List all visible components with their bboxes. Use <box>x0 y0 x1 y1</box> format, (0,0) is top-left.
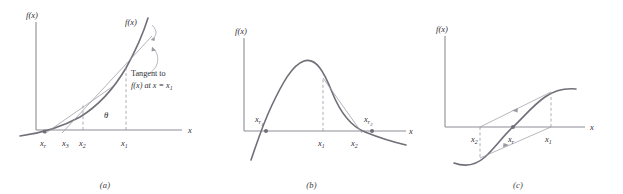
tick-label-xr-c: xr <box>507 134 515 145</box>
tick-x1-sub-b: 1 <box>322 143 325 149</box>
panel-b: f(x) x xr1 xr2 x1 x2 (b) <box>210 0 413 194</box>
panel-b-plot: f(x) x xr1 xr2 x1 x2 <box>210 0 413 194</box>
tick-label-x2-c: x2 <box>470 134 478 145</box>
panel-c-plot: f(x) x x2 xr x1 <box>413 0 623 194</box>
root-label-xr2-b: xr2 <box>363 114 373 127</box>
tangent-annotation-line1: Tangent to <box>131 69 166 78</box>
root-marker-c <box>511 125 515 129</box>
tick-x1-sub-a: 1 <box>125 143 128 149</box>
panel-b-caption: (b) <box>210 180 413 190</box>
tick-label-x2-b: x2 <box>350 138 358 149</box>
tick-xr-sub-c: r <box>512 139 515 145</box>
tick-label-x3-a: x3 <box>61 138 69 149</box>
x-axis-label-a: x <box>187 125 192 135</box>
tick-x2-sub-b: 2 <box>355 143 358 149</box>
panel-a-caption: (a) <box>0 180 210 190</box>
tick-x2-sub-c: 2 <box>475 139 478 145</box>
tick-label-xr-a: xr <box>39 138 47 149</box>
arrowhead-upper-c <box>512 108 518 113</box>
root-xr1-sub2: 1 <box>261 122 263 127</box>
tick-x2-sub-a: 2 <box>83 143 86 149</box>
root-marker-b-right <box>370 129 374 133</box>
tick-x3-sub-a: 3 <box>65 143 69 149</box>
tangent-annotation-line2-sub: 1 <box>170 85 173 91</box>
root-finding-figure: f(x) x f(x) θ Tangent to f(x) at x = x1 … <box>0 0 623 194</box>
tick-x1-sub-c: 1 <box>549 139 552 145</box>
y-axis-label-a: f(x) <box>26 10 38 20</box>
root-xr2-sub2: 2 <box>370 122 373 127</box>
root-marker-b-left <box>264 129 268 133</box>
tangent-line-x2 <box>45 87 112 134</box>
tick-label-x1-c: x1 <box>544 134 552 145</box>
tick-label-x1-b: x1 <box>317 138 325 149</box>
tangent-annotation-line2-text: f(x) at x = x <box>131 81 170 90</box>
curve-label-leader-a <box>151 25 156 40</box>
y-axis-label-b: f(x) <box>235 26 247 36</box>
secant-line-b <box>323 78 362 133</box>
panel-c: f(x) x x2 xr x1 (c) <box>413 0 623 194</box>
x-axis-label-c: x <box>589 122 594 132</box>
function-curve-b <box>251 60 406 160</box>
tangent-annotation-line2: f(x) at x = x1 <box>131 81 173 91</box>
y-axis-label-c: f(x) <box>436 24 448 34</box>
root-label-xr1-b: xr1 <box>254 114 263 127</box>
function-curve-a <box>20 18 148 136</box>
tick-label-x2-a: x2 <box>78 138 86 149</box>
construction-line-lower-c <box>480 127 551 158</box>
panel-c-caption: (c) <box>413 180 623 190</box>
panel-a: f(x) x f(x) θ Tangent to f(x) at x = x1 … <box>0 0 210 194</box>
curve-label-arrowhead-a <box>151 37 155 41</box>
tick-label-x1-a: x1 <box>120 138 128 149</box>
curve-label-a: f(x) <box>125 17 137 27</box>
tick-xr-sub-a: r <box>44 143 47 149</box>
theta-label: θ <box>104 110 109 120</box>
panel-a-plot: f(x) x f(x) θ Tangent to f(x) at x = x1 … <box>0 0 210 194</box>
root-marker-a <box>43 130 47 134</box>
